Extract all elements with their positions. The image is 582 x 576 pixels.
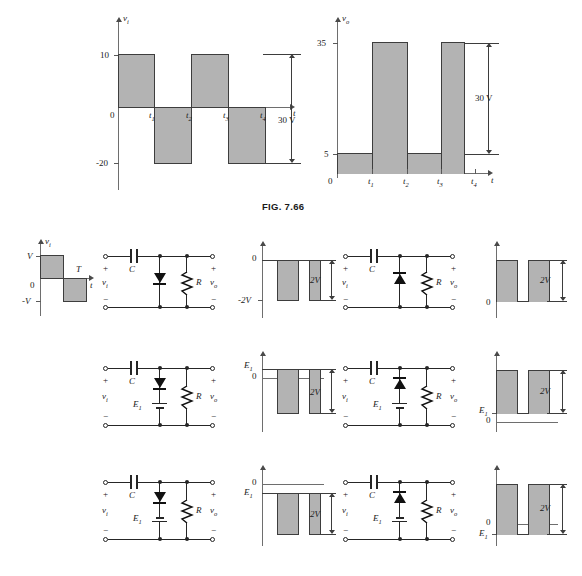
dim-line bbox=[331, 372, 332, 411]
zero-label: 0 bbox=[486, 416, 491, 425]
output-plus-sign: + bbox=[211, 376, 216, 385]
output-wave-row3-left: 0 E1 2V bbox=[238, 464, 348, 549]
capacitor-plate-left bbox=[370, 361, 372, 375]
y-tick-label-minusV: -V bbox=[22, 297, 31, 306]
y-tick-label-10: 10 bbox=[100, 51, 109, 60]
zero-label: 0 bbox=[252, 372, 257, 381]
dim-cap-bottom bbox=[547, 413, 567, 414]
dim-line bbox=[562, 263, 563, 298]
output-wave-row1-left: 0 -2V 2V bbox=[238, 240, 348, 320]
battery-plate-short bbox=[396, 517, 404, 519]
wire-top-left bbox=[108, 368, 130, 369]
dim-arrow-up-icon bbox=[329, 369, 335, 373]
dim-arrow-up-icon bbox=[289, 54, 295, 58]
node-diode-bottom bbox=[398, 423, 402, 427]
period-label-T: T bbox=[76, 265, 81, 274]
output-minus-sign: − bbox=[211, 526, 216, 535]
output-waveform-chart: vo t 35 5 0 t1 t2 t3 t4 30 bbox=[315, 8, 515, 188]
y-tick-35 bbox=[333, 43, 338, 44]
node-res-top bbox=[425, 480, 429, 484]
x-tick-label-t1: t1 bbox=[149, 111, 155, 122]
dim-cap-top bbox=[263, 54, 301, 55]
y-axis-label: vo bbox=[342, 14, 349, 25]
pulse-high-2 bbox=[191, 54, 229, 108]
diode-symbol bbox=[154, 273, 166, 283]
x-tick-t3 bbox=[441, 169, 442, 174]
dim-label-2v: 2V bbox=[310, 276, 320, 285]
wire-top-left bbox=[348, 482, 370, 483]
battery-label: E1 bbox=[373, 514, 382, 525]
output-minus-sign: − bbox=[451, 526, 456, 535]
capacitor-label: C bbox=[369, 377, 375, 386]
node-res-top bbox=[185, 480, 189, 484]
output-voltage-label: vo bbox=[210, 278, 217, 289]
node-diode-bottom bbox=[158, 423, 162, 427]
wire-top-right bbox=[137, 368, 211, 369]
wave-baseline-top bbox=[262, 260, 278, 261]
dim-cap-bottom bbox=[266, 163, 301, 164]
output-wave-row3-right: 0 E1 2V bbox=[474, 464, 582, 549]
dim-arrow-down-icon bbox=[329, 530, 335, 534]
resistor-label: R bbox=[436, 506, 442, 515]
output-voltage-label: vo bbox=[450, 278, 457, 289]
node-diode-top bbox=[158, 254, 162, 258]
dim-arrow-up-icon bbox=[560, 370, 566, 374]
node-diode-bottom bbox=[158, 305, 162, 309]
capacitor-plate-left bbox=[370, 475, 372, 489]
capacitor-plate-left bbox=[370, 249, 372, 263]
wire-res-branch-top bbox=[426, 256, 427, 273]
dim-line bbox=[562, 487, 563, 531]
node-diode-top bbox=[398, 366, 402, 370]
y-axis-arrow-icon bbox=[260, 351, 266, 356]
input-minus-sign: − bbox=[103, 295, 108, 304]
wire-top-right bbox=[137, 256, 211, 257]
resistor-symbol bbox=[180, 386, 194, 409]
input-minus-sign: − bbox=[343, 412, 348, 421]
zero-reference-line bbox=[496, 422, 558, 423]
dim-cap-top bbox=[465, 43, 499, 44]
capacitor-label: C bbox=[129, 491, 135, 500]
battery-plate-long bbox=[392, 403, 407, 404]
wave-dip-1 bbox=[277, 369, 299, 414]
wire-top-right bbox=[377, 368, 451, 369]
zero-label: 0 bbox=[486, 298, 491, 307]
diode-symbol bbox=[394, 274, 406, 284]
wave-top-segment-1 bbox=[262, 369, 278, 370]
wave-pulse-1 bbox=[496, 260, 518, 302]
resistor-symbol bbox=[420, 500, 434, 523]
output-voltage-label: vo bbox=[210, 392, 217, 403]
y-axis-arrow-icon bbox=[335, 17, 341, 22]
origin-label: 0 bbox=[30, 281, 35, 290]
y-axis bbox=[262, 356, 263, 432]
node-res-bottom bbox=[185, 305, 189, 309]
capacitor-label: C bbox=[129, 377, 135, 386]
dim-label-2v: 2V bbox=[540, 276, 550, 285]
dim-cap-bottom bbox=[547, 301, 567, 302]
x-axis-label: t bbox=[491, 176, 494, 185]
dim-cap-bottom bbox=[318, 413, 336, 414]
zero-label: 0 bbox=[252, 478, 257, 487]
resistor-label: R bbox=[436, 392, 442, 401]
clamper-diode-up-battery: C R E1 + − vi + − vo bbox=[340, 352, 470, 437]
diode-cathode-bar bbox=[153, 388, 166, 390]
dim-arrow-down-icon bbox=[486, 150, 492, 154]
y-tick-neg2v bbox=[258, 300, 263, 301]
wire-res-branch-top bbox=[186, 482, 187, 500]
input-pulse-negative bbox=[63, 278, 87, 302]
node-diode-top bbox=[398, 254, 402, 258]
y-axis-arrow-icon bbox=[38, 239, 44, 244]
wire-res-branch-top bbox=[186, 368, 187, 386]
y-tick-minus20 bbox=[114, 163, 119, 164]
y-axis bbox=[262, 246, 263, 318]
node-res-top bbox=[185, 254, 189, 258]
output-minus-sign: − bbox=[451, 412, 456, 421]
y-axis-label: vi bbox=[45, 237, 51, 248]
resistor-label: R bbox=[436, 278, 442, 287]
resistor-label: R bbox=[196, 506, 202, 515]
node-res-top bbox=[425, 254, 429, 258]
input-voltage-label: vi bbox=[342, 506, 348, 517]
y-axis bbox=[262, 470, 263, 546]
origin-label: 0 bbox=[328, 177, 333, 186]
node-diode-bottom bbox=[398, 537, 402, 541]
dim-arrow-down-icon bbox=[560, 297, 566, 301]
